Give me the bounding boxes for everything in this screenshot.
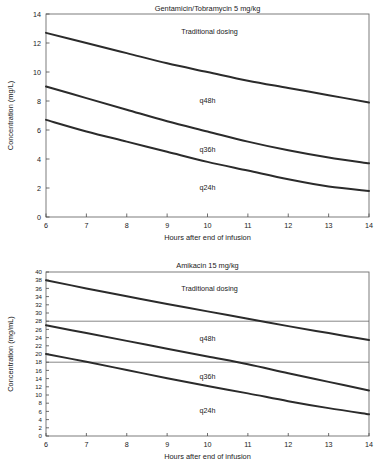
- y-tick-label-amikacin-16: 16: [35, 367, 42, 374]
- y-tick-label-gentamicin-10: 10: [33, 68, 41, 77]
- x-tick-label-amikacin-11: 11: [244, 440, 251, 449]
- x-tick-label-gentamicin-14: 14: [365, 221, 373, 230]
- y-axis-label-gentamicin: Concentration (mg/L): [6, 81, 15, 150]
- y-axis-label-amikacin: Concentration (mg/mL): [6, 316, 15, 392]
- x-tick-label-amikacin-10: 10: [204, 440, 212, 449]
- y-tick-label-amikacin-10: 10: [35, 391, 42, 398]
- x-axis-gentamicin: 67891011121314: [44, 214, 373, 230]
- y-tick-label-amikacin-12: 12: [35, 383, 42, 390]
- y-tick-label-amikacin-4: 4: [39, 416, 43, 423]
- y-tick-label-amikacin-32: 32: [35, 301, 42, 308]
- x-tick-label-amikacin-7: 7: [84, 440, 88, 449]
- y-tick-label-amikacin-24: 24: [35, 334, 42, 341]
- x-axis-label-gentamicin: Hours after end of infusion: [164, 233, 251, 242]
- chart-svg-gentamicin: Gentamicin/Tobramycin 5 mg/kg02468101214…: [0, 0, 381, 245]
- x-tick-label-gentamicin-6: 6: [44, 221, 48, 230]
- curve-label-amikacin-q24h: q24h: [200, 406, 216, 415]
- y-tick-label-amikacin-36: 36: [35, 285, 42, 292]
- y-tick-label-amikacin-0: 0: [39, 432, 43, 439]
- y-tick-label-amikacin-40: 40: [35, 268, 42, 275]
- y-tick-label-amikacin-22: 22: [35, 342, 42, 349]
- x-tick-label-gentamicin-13: 13: [325, 221, 333, 230]
- x-tick-label-amikacin-9: 9: [165, 440, 169, 449]
- y-tick-label-gentamicin-4: 4: [37, 155, 41, 164]
- curve-label-gentamicin-traditional-dosing: Traditional dosing: [181, 27, 237, 36]
- curve-label-amikacin-traditional-dosing: Traditional dosing: [181, 284, 237, 293]
- x-axis-label-amikacin: Hours after end of infusion: [164, 452, 251, 461]
- y-tick-label-gentamicin-14: 14: [33, 10, 41, 19]
- y-tick-label-gentamicin-6: 6: [37, 126, 41, 135]
- y-tick-label-amikacin-2: 2: [39, 424, 43, 431]
- y-tick-label-amikacin-8: 8: [39, 399, 43, 406]
- x-tick-label-gentamicin-11: 11: [244, 221, 251, 230]
- chart-svg-amikacin: Amikacin 15 mg/kg02468101214161820222426…: [0, 245, 381, 474]
- x-tick-label-amikacin-8: 8: [125, 440, 129, 449]
- x-tick-label-amikacin-12: 12: [284, 440, 292, 449]
- curve-label-gentamicin-q48h: q48h: [200, 96, 216, 105]
- x-tick-label-amikacin-14: 14: [365, 440, 373, 449]
- y-tick-label-amikacin-18: 18: [35, 358, 42, 365]
- y-tick-label-gentamicin-12: 12: [33, 39, 41, 48]
- chart-title-amikacin: Amikacin 15 mg/kg: [176, 261, 238, 270]
- y-axis-gentamicin: 02468101214: [33, 10, 50, 222]
- x-tick-label-gentamicin-10: 10: [204, 221, 212, 230]
- y-tick-label-amikacin-20: 20: [35, 350, 42, 357]
- x-tick-label-gentamicin-8: 8: [125, 221, 129, 230]
- y-tick-label-amikacin-26: 26: [35, 326, 42, 333]
- curve-label-amikacin-q36h: q36h: [200, 372, 216, 381]
- x-tick-label-gentamicin-12: 12: [284, 221, 292, 230]
- x-tick-label-amikacin-13: 13: [325, 440, 333, 449]
- curve-gentamicin-traditional-dosing: [46, 33, 369, 103]
- chart-figure-amikacin: Amikacin 15 mg/kg02468101214161820222426…: [0, 245, 381, 474]
- chart-figure-gentamicin: Gentamicin/Tobramycin 5 mg/kg02468101214…: [0, 0, 381, 245]
- x-tick-label-gentamicin-9: 9: [165, 221, 169, 230]
- chart-title-gentamicin: Gentamicin/Tobramycin 5 mg/kg: [155, 4, 261, 13]
- y-tick-label-amikacin-30: 30: [35, 309, 42, 316]
- x-tick-label-gentamicin-7: 7: [84, 221, 88, 230]
- curve-label-amikacin-q48h: q48h: [200, 334, 216, 343]
- y-tick-label-amikacin-6: 6: [39, 408, 43, 415]
- y-tick-label-gentamicin-8: 8: [37, 97, 41, 106]
- y-tick-label-gentamicin-2: 2: [37, 184, 41, 193]
- x-tick-label-amikacin-6: 6: [44, 440, 48, 449]
- y-tick-label-amikacin-28: 28: [35, 317, 42, 324]
- curve-label-gentamicin-q36h: q36h: [200, 145, 216, 154]
- y-tick-label-amikacin-38: 38: [35, 276, 42, 283]
- curve-label-gentamicin-q24h: q24h: [200, 183, 216, 192]
- y-tick-label-amikacin-34: 34: [35, 293, 42, 300]
- y-tick-label-amikacin-14: 14: [35, 375, 42, 382]
- y-tick-label-gentamicin-0: 0: [37, 213, 41, 222]
- x-axis-amikacin: 67891011121314: [44, 433, 373, 449]
